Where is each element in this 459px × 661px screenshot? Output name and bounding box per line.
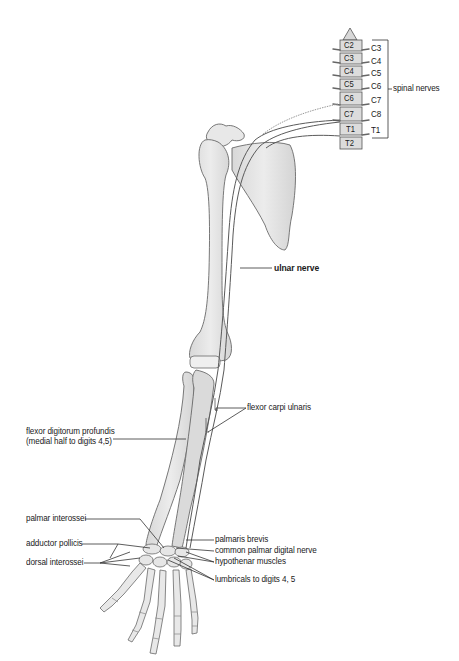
vertebra-label-c5: C5: [344, 79, 354, 89]
vertebra-label-t2: T2: [345, 138, 354, 148]
spinal-nerve-label-t1: T1: [371, 125, 380, 135]
flexor-digitorum-label-line2: (medial half to digits 4,5): [26, 436, 112, 446]
hypothenar-muscles-label: hypothenar muscles: [215, 556, 286, 566]
vertebra-label-t1: T1: [346, 124, 355, 134]
vertebra-label-c6: C6: [344, 93, 354, 103]
ulnar-nerve-label: ulnar nerve: [274, 262, 319, 273]
spinal-nerve-label-c7: C7: [371, 95, 381, 105]
spinal-nerve-label-c3: C3: [371, 43, 381, 53]
spinal-nerve-label-c8: C8: [371, 109, 381, 119]
dorsal-interossei-label: dorsal interossei: [26, 557, 83, 567]
vertebra-label-c4: C4: [344, 66, 354, 76]
elbow-joint: [190, 356, 220, 368]
common-palmar-digital-nerve-label: common palmar digital nerve: [215, 545, 317, 555]
vertebra-label-c7: C7: [344, 109, 354, 119]
palmaris-brevis-label: palmaris brevis: [215, 534, 268, 544]
flexor-carpi-ulnaris-label: flexor carpi ulnaris: [247, 402, 311, 412]
spinal-nerve-label-c5: C5: [371, 68, 381, 78]
vertebra-label-c3: C3: [344, 53, 354, 63]
humerus: [189, 140, 231, 362]
spinal-nerve-label-c6: C6: [371, 81, 381, 91]
finger-bones: [128, 568, 198, 654]
scapula: [232, 142, 296, 250]
adductor-pollicis-label: adductor pollicis: [26, 538, 83, 548]
thumb: [100, 563, 146, 612]
palmar-interossei-label: palmar interossei: [26, 513, 86, 523]
spinal-nerve-label-c4: C4: [371, 56, 381, 66]
lumbricals-label: lumbricals to digits 4, 5: [215, 574, 295, 584]
spinal-nerves-label: spinal nerves: [393, 83, 440, 93]
flexor-digitorum-label-line1: flexor digitorum profundis: [26, 426, 115, 436]
vertebra-label-c2: C2: [344, 40, 354, 50]
